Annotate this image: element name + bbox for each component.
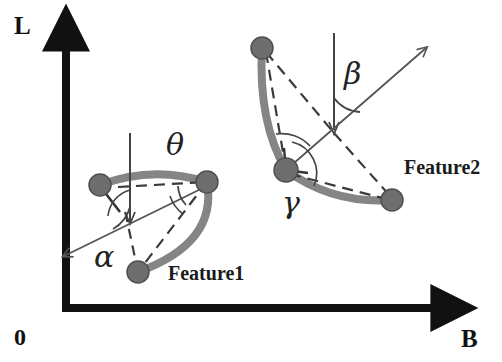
feature1-alpha-label: α (94, 239, 114, 274)
feature1-node-bottom (127, 261, 149, 283)
feature2-node-top (251, 37, 273, 59)
feature2-node-vertex (274, 158, 298, 182)
feature1-group: θ α Feature1 (64, 127, 244, 284)
feature2-curve-upper (262, 48, 287, 170)
feature1-node-left (89, 174, 111, 196)
feature1-node-right (196, 171, 218, 193)
horizontal-axis-label: B (461, 325, 478, 352)
feature2-chord-top-center (266, 52, 334, 133)
feature2-chord-center-bottomright (334, 133, 390, 196)
feature2-curve-lower (286, 170, 392, 200)
feature2-node-bottom-right (381, 189, 403, 211)
feature2-gamma-label: γ (282, 185, 300, 220)
feature1-label: Feature1 (168, 262, 244, 284)
feature2-beta-label: β (343, 56, 361, 91)
feature-angle-diagram: L B 0 (0, 0, 502, 362)
origin-label: 0 (14, 324, 26, 350)
feature2-group: β γ Feature2 (251, 33, 480, 220)
feature2-label: Feature2 (404, 156, 480, 178)
feature1-theta-label: θ (166, 127, 184, 162)
vertical-axis-label: L (14, 12, 31, 39)
diagram-canvas: L B 0 (0, 0, 502, 362)
feature1-theta-arc (178, 186, 186, 205)
